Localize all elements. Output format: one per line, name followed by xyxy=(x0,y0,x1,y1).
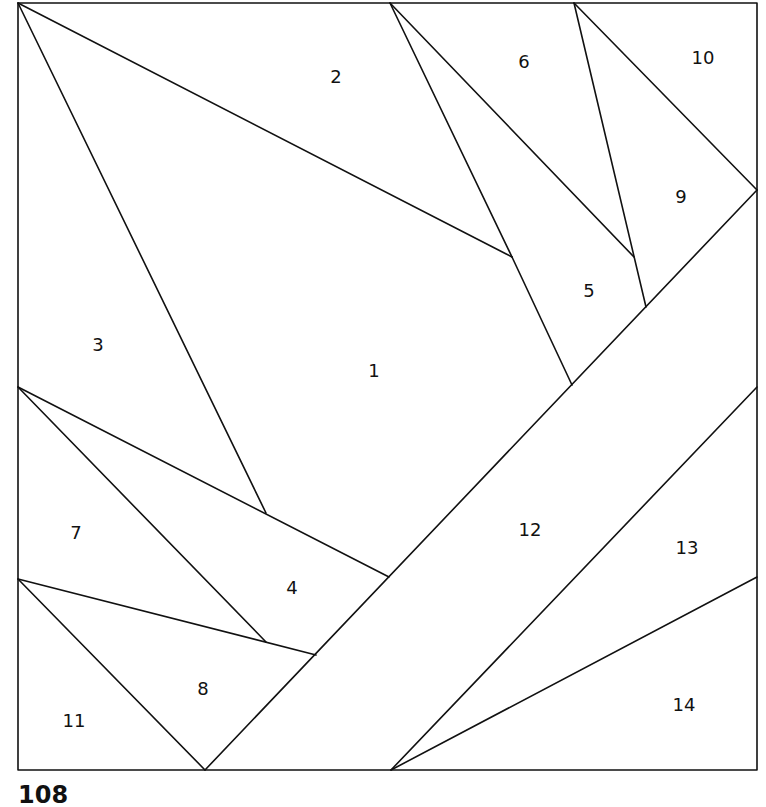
line-14-13 xyxy=(391,577,757,770)
line-5-left xyxy=(390,3,512,257)
piece-label-14: 14 xyxy=(673,694,696,715)
line-4-top xyxy=(18,387,389,577)
line-7-4 xyxy=(18,387,266,642)
pattern-lines xyxy=(18,3,757,770)
piece-label-7: 7 xyxy=(70,522,81,543)
piece-label-6: 6 xyxy=(518,51,529,72)
page-number-caption: 108 xyxy=(18,783,68,807)
piece-label-8: 8 xyxy=(197,678,208,699)
piece-label-4: 4 xyxy=(286,577,297,598)
outer-border xyxy=(18,3,757,770)
piece-label-5: 5 xyxy=(583,280,594,301)
piece-label-1: 1 xyxy=(368,360,379,381)
line-9-left xyxy=(574,3,646,307)
line-2-1 xyxy=(18,3,512,257)
piece-label-11: 11 xyxy=(63,710,86,731)
piece-label-9: 9 xyxy=(675,186,686,207)
piece-label-13: 13 xyxy=(676,537,699,558)
piece-label-2: 2 xyxy=(330,66,341,87)
line-3-1 xyxy=(18,3,266,513)
piece-label-10: 10 xyxy=(692,47,715,68)
line-5-left-lower xyxy=(512,257,572,385)
piece-label-12: 12 xyxy=(519,519,542,540)
line-13-12 xyxy=(391,387,757,770)
line-10-9 xyxy=(574,3,757,190)
line-12-top xyxy=(205,190,757,770)
line-6-5 xyxy=(390,3,634,257)
line-8-top xyxy=(18,579,316,655)
line-11-8 xyxy=(18,579,205,770)
piece-labels: 1 2 3 4 5 6 7 8 9 10 11 12 13 14 xyxy=(63,47,715,731)
piece-label-3: 3 xyxy=(92,334,103,355)
